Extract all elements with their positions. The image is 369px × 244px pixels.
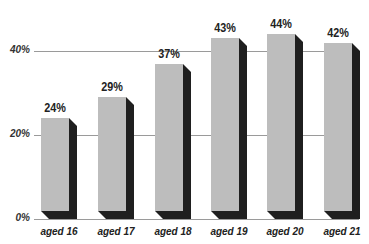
value-label: 37% xyxy=(149,47,189,61)
x-axis-category-label: aged 21 xyxy=(314,226,369,237)
value-label: 42% xyxy=(318,26,358,40)
bar-shadow-side xyxy=(126,97,134,219)
bar-shadow-side xyxy=(352,43,360,219)
x-axis-category-label: aged 19 xyxy=(201,226,257,237)
y-axis-tick-label: 0% xyxy=(2,212,30,223)
value-label: 24% xyxy=(35,101,75,115)
bar-shadow-side xyxy=(295,34,303,219)
x-axis-category-label: aged 16 xyxy=(31,226,87,237)
bar-face xyxy=(267,34,295,211)
bar-chart: 0%20%40%24%aged 1629%aged 1737%aged 1843… xyxy=(0,0,369,244)
bar-face xyxy=(41,118,69,211)
bar-face xyxy=(324,43,352,211)
x-axis-category-label: aged 18 xyxy=(145,226,201,237)
bar-shadow-side xyxy=(183,64,191,219)
bar-face xyxy=(98,97,126,211)
value-label: 44% xyxy=(261,17,301,31)
gridline xyxy=(34,51,359,52)
value-label: 43% xyxy=(205,21,245,35)
bar-face xyxy=(211,38,239,211)
gridline xyxy=(34,135,359,136)
x-axis-category-label: aged 17 xyxy=(88,226,144,237)
bar-face xyxy=(155,64,183,211)
y-axis-tick-label: 40% xyxy=(2,44,30,55)
x-axis-category-label: aged 20 xyxy=(257,226,313,237)
bar-shadow-side xyxy=(69,118,77,219)
bar-shadow-side xyxy=(239,38,247,219)
value-label: 29% xyxy=(92,80,132,94)
gridline xyxy=(34,219,359,220)
y-axis-tick-label: 20% xyxy=(2,128,30,139)
